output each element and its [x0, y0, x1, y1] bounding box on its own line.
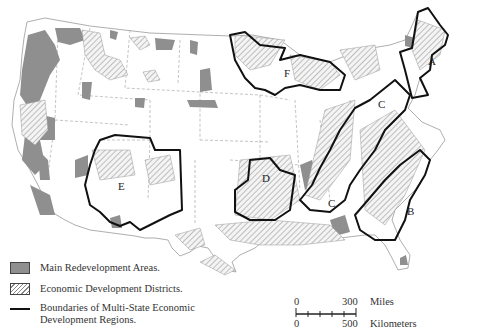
legend-label: Main Redevelopment Areas. [40, 262, 160, 274]
region-label-d: D [262, 172, 270, 184]
scale-ruler-icon [295, 308, 357, 318]
scale-miles-start: 0 [294, 296, 299, 307]
legend-label: Boundaries of Multi-State Economic [40, 302, 195, 314]
region-label-c-north: C [378, 98, 385, 110]
scale-km-start: 0 [294, 318, 299, 329]
region-label-c-south: C [328, 197, 335, 209]
legend-label: Economic Development Districts. [40, 283, 183, 295]
region-label-f: F [284, 67, 290, 79]
scale-km-end: 500 [342, 318, 358, 329]
region-label-a: A [428, 55, 436, 67]
redevelopment-swatch-icon [10, 262, 30, 274]
region-label-e: E [118, 180, 125, 192]
region-label-b: B [407, 205, 414, 217]
boundary-line-icon [10, 308, 30, 310]
scale-bar: 0 300 Miles 0 500 Kilometers [290, 296, 477, 333]
legend-label: Development Regions. [40, 314, 136, 326]
district-swatch-icon [10, 283, 30, 295]
scale-miles-end: 300 [342, 296, 358, 307]
scale-miles-unit: Miles [370, 296, 394, 307]
scale-km-unit: Kilometers [370, 318, 417, 329]
